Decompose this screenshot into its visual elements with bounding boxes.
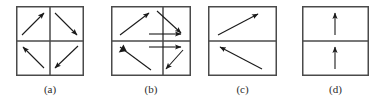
panel-d-label: (d): [302, 83, 369, 95]
panel-b-diagram: [111, 6, 191, 76]
arrow-top-right-down-right: [55, 13, 77, 35]
arrow-top-right-down-right: [157, 11, 181, 33]
arrow-bottom-right-down-left: [55, 46, 78, 68]
arrow-bottom-right-down-left: [166, 50, 183, 69]
arrow-bottom-left-up-left: [23, 47, 44, 68]
arrow-top-up-right: [218, 14, 258, 35]
arrow-bottom-left-head: [118, 44, 127, 52]
panel-c-label: (c): [208, 83, 277, 95]
panel-b: [111, 6, 191, 76]
panel-d: [302, 6, 369, 76]
arrow-top-left-up-right: [120, 13, 149, 35]
arrow-bottom-up-left: [220, 47, 262, 69]
panel-a: [16, 6, 84, 76]
arrow-top-left-up-right: [22, 13, 44, 35]
panel-d-diagram: [302, 6, 369, 76]
figure-container: (a) (b): [0, 0, 375, 104]
panel-a-diagram: [16, 6, 84, 76]
panel-a-label: (a): [16, 83, 84, 95]
panel-b-label: (b): [111, 83, 191, 95]
panel-c: [208, 6, 277, 76]
panel-c-diagram: [208, 6, 277, 76]
